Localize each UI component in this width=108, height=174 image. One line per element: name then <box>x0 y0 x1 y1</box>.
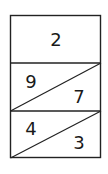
fraction-diagram: 2 9 7 4 3 <box>0 0 108 174</box>
row-1-lower-right-value: 7 <box>69 88 89 106</box>
row-1-upper-left-value: 9 <box>21 73 41 91</box>
top-cell-value: 2 <box>46 31 66 49</box>
row-2-lower-right-value: 3 <box>69 134 89 152</box>
row-2-upper-left-value: 4 <box>21 120 41 138</box>
grid-lines <box>0 0 108 174</box>
